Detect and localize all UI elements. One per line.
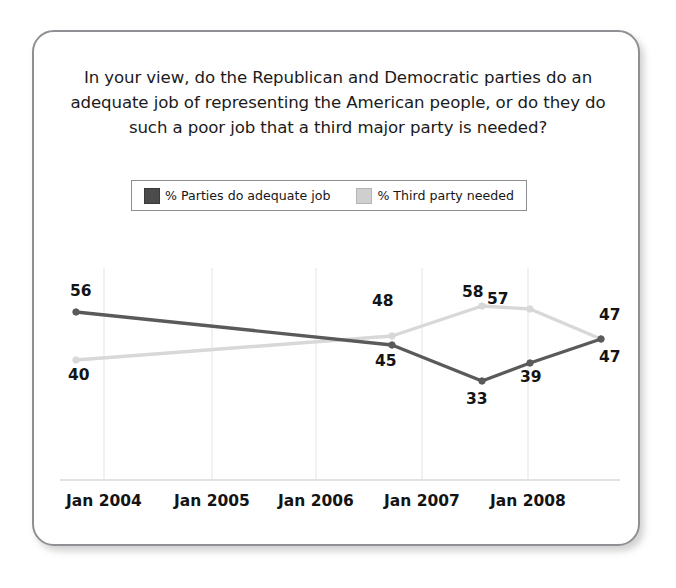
x-axis-tick-label: Jan 2007 [384, 492, 460, 510]
x-axis-tick-label: Jan 2008 [490, 492, 566, 510]
legend-item-third-party: % Third party needed [356, 188, 514, 204]
data-point-label: 58 [462, 283, 484, 301]
legend-swatch-icon [356, 188, 372, 204]
data-point-label: 39 [520, 368, 542, 386]
legend-swatch-icon [144, 188, 160, 204]
x-axis-tick-label: Jan 2004 [66, 492, 142, 510]
data-point-label: 45 [375, 352, 397, 370]
x-axis-tick-label: Jan 2005 [174, 492, 250, 510]
page-title: In your view, do the Republican and Demo… [56, 65, 620, 140]
chart-legend: % Parties do adequate job % Third party … [131, 180, 527, 211]
data-point-label: 48 [372, 292, 394, 310]
data-point-label: 33 [466, 390, 488, 408]
chart-card: In your view, do the Republican and Demo… [32, 30, 640, 546]
data-point-label: 57 [487, 290, 509, 308]
data-point-label: 47 [599, 348, 621, 366]
x-axis-tick-label: Jan 2006 [278, 492, 354, 510]
data-point-label: 56 [70, 282, 92, 300]
legend-label: % Parties do adequate job [165, 188, 330, 203]
legend-label: % Third party needed [377, 188, 514, 203]
data-point-label: 40 [68, 366, 90, 384]
data-point-label: 47 [599, 306, 621, 324]
legend-item-adequate-job: % Parties do adequate job [144, 188, 330, 204]
